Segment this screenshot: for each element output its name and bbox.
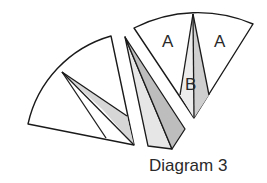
left-sector	[28, 36, 134, 145]
diagram-caption: Diagram 3	[149, 156, 227, 176]
label-b: B	[185, 75, 196, 94]
label-a-left: A	[162, 32, 174, 51]
label-a-right: A	[214, 32, 226, 51]
